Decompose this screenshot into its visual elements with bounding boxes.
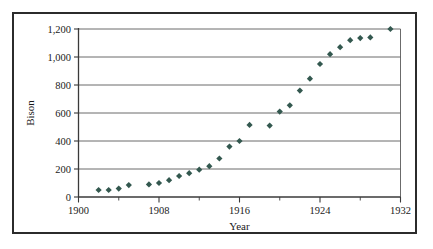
data-point-marker xyxy=(277,109,283,115)
x-tick-label: 1924 xyxy=(310,205,332,216)
x-tick-label: 1908 xyxy=(149,205,170,216)
data-point-marker xyxy=(307,76,313,82)
data-point-marker xyxy=(126,182,132,188)
y-tick-label: 400 xyxy=(55,136,71,147)
x-tick-label: 1916 xyxy=(229,205,250,216)
data-point-marker xyxy=(287,102,293,108)
data-point-marker xyxy=(347,37,353,43)
data-point-marker xyxy=(327,51,333,57)
data-point-marker xyxy=(106,187,112,193)
y-tick-label: 1,000 xyxy=(47,52,71,63)
y-axis-title: Bison xyxy=(24,100,36,126)
figure-container: 02004006008001,0001,20019001908191619241… xyxy=(0,0,433,249)
data-point-marker xyxy=(297,88,303,94)
data-point-marker xyxy=(186,170,192,176)
data-point-marker xyxy=(96,187,102,193)
data-point-marker xyxy=(216,155,222,161)
data-point-marker xyxy=(236,138,242,144)
y-tick-label: 1,200 xyxy=(47,24,71,35)
y-tick-label: 800 xyxy=(55,80,71,91)
data-point-marker xyxy=(176,173,182,179)
data-point-marker xyxy=(116,186,122,192)
data-point-marker xyxy=(267,123,273,129)
x-tick-label: 1900 xyxy=(68,205,89,216)
data-point-marker xyxy=(166,177,172,183)
y-tick-label: 200 xyxy=(55,164,71,175)
x-axis-title: Year xyxy=(229,220,250,232)
data-point-marker xyxy=(337,44,343,50)
data-point-marker xyxy=(387,26,393,32)
chart-frame: 02004006008001,0001,20019001908191619241… xyxy=(12,12,417,234)
data-point-marker xyxy=(367,34,373,40)
scatter-chart: 02004006008001,0001,20019001908191619241… xyxy=(14,14,415,232)
data-point-marker xyxy=(196,167,202,173)
y-tick-label: 600 xyxy=(55,108,71,119)
data-point-marker xyxy=(246,122,252,128)
y-tick-label: 0 xyxy=(66,192,71,203)
data-point-marker xyxy=(226,144,232,150)
data-point-marker xyxy=(317,61,323,67)
data-point-marker xyxy=(206,163,212,169)
data-point-marker xyxy=(156,180,162,186)
data-point-marker xyxy=(146,181,152,187)
data-point-marker xyxy=(357,35,363,41)
x-tick-label: 1932 xyxy=(390,205,411,216)
